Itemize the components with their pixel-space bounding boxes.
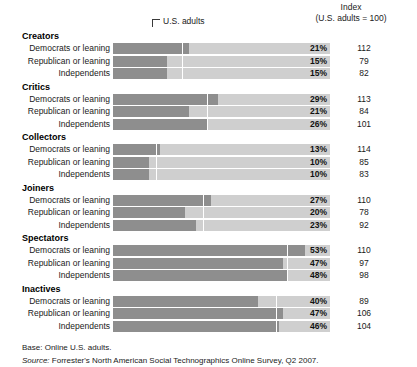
bar-value-label: 20%: [310, 207, 327, 218]
bar-row: Independents48%98: [0, 270, 417, 281]
index-value: 110: [336, 195, 392, 206]
us-adults-marker: [203, 219, 204, 232]
bar-row: Republican or leaning20%78: [0, 207, 417, 218]
bar-row: Independents26%101: [0, 119, 417, 130]
bar-value-label: 27%: [310, 195, 327, 206]
bar-fill: [113, 169, 149, 180]
bar-track: 20%: [113, 207, 330, 218]
us-adults-marker: [287, 257, 288, 270]
us-adults-marker: [203, 194, 204, 207]
bar-value-label: 13%: [310, 144, 327, 155]
index-header-line2: (U.S. adults = 100): [291, 13, 411, 24]
bar-row: Republican or leaning10%85: [0, 157, 417, 168]
bar-row: Republican or leaning21%84: [0, 106, 417, 117]
bar-track: 15%: [113, 68, 330, 79]
group-title: Critics: [0, 81, 417, 94]
bar-fill: [113, 94, 218, 105]
bar-fill: [113, 207, 185, 218]
chart-footer: Base: Online U.S. adults. Source: Forres…: [0, 341, 417, 367]
us-adults-marker: [276, 307, 277, 320]
source-text: Forrester's North American Social Techno…: [52, 356, 319, 365]
index-value: 84: [336, 106, 392, 117]
index-value: 82: [336, 68, 392, 79]
bar-value-label: 40%: [310, 296, 327, 307]
bar-fill: [113, 220, 196, 231]
bar-row: Democrats or leaning13%114: [0, 144, 417, 155]
bar-row: Democrats or leaning21%112: [0, 43, 417, 54]
index-value: 85: [336, 157, 392, 168]
bar-row: Democrats or leaning27%110: [0, 195, 417, 206]
bar-row-label: Democrats or leaning: [0, 195, 110, 206]
bar-row-label: Independents: [0, 119, 110, 130]
us-adults-marker: [207, 93, 208, 106]
us-adults-marker: [182, 55, 183, 68]
bar-row: Republican or leaning47%97: [0, 258, 417, 269]
bar-row-label: Independents: [0, 321, 110, 332]
bar-row-label: Democrats or leaning: [0, 245, 110, 256]
bar-track: 26%: [113, 119, 330, 130]
index-value: 89: [336, 296, 392, 307]
bar-value-label: 23%: [310, 220, 327, 231]
group-title: Collectors: [0, 131, 417, 144]
bar-row: Independents23%92: [0, 220, 417, 231]
bar-row-label: Democrats or leaning: [0, 43, 110, 54]
bar-track: 40%: [113, 296, 330, 307]
bar-row: Democrats or leaning40%89: [0, 296, 417, 307]
bar-fill: [113, 43, 189, 54]
bar-fill: [113, 258, 283, 269]
bar-fill: [113, 106, 189, 117]
bar-track: 29%: [113, 94, 330, 105]
bar-value-label: 29%: [310, 94, 327, 105]
group-title: Creators: [0, 30, 417, 43]
source-note: Source: Forrester's North American Socia…: [22, 354, 417, 367]
us-adults-marker: [182, 42, 183, 55]
bar-row-label: Republican or leaning: [0, 308, 110, 319]
bar-fill: [113, 68, 167, 79]
bar-row-label: Independents: [0, 220, 110, 231]
bar-value-label: 47%: [310, 258, 327, 269]
bar-fill: [113, 270, 287, 281]
bar-track: 27%: [113, 195, 330, 206]
bar-track: 21%: [113, 106, 330, 117]
index-value: 92: [336, 220, 392, 231]
bar-row: Democrats or leaning53%110: [0, 245, 417, 256]
bar-fill: [113, 321, 279, 332]
index-column-header: Index (U.S. adults = 100): [291, 2, 411, 24]
group-creators: CreatorsDemocrats or leaning21%112Republ…: [0, 30, 417, 79]
bar-row: Independents46%104: [0, 321, 417, 332]
index-value: 101: [336, 119, 392, 130]
group-critics: CriticsDemocrats or leaning29%113Republi…: [0, 81, 417, 130]
bar-track: 53%: [113, 245, 330, 256]
us-adults-marker: [182, 67, 183, 80]
source-label: Source:: [22, 356, 50, 365]
bar-row-label: Democrats or leaning: [0, 296, 110, 307]
group-title: Joiners: [0, 182, 417, 195]
bar-value-label: 15%: [310, 56, 327, 67]
index-value: 78: [336, 207, 392, 218]
index-value: 106: [336, 308, 392, 319]
bar-row: Independents10%83: [0, 169, 417, 180]
bar-row-label: Independents: [0, 68, 110, 79]
us-adults-marker: [276, 295, 277, 308]
bar-fill: [113, 245, 305, 256]
index-value: 110: [336, 245, 392, 256]
us-adults-callout: U.S. adults: [152, 15, 205, 26]
bar-row-label: Republican or leaning: [0, 56, 110, 67]
bar-track: 47%: [113, 308, 330, 319]
us-adults-marker: [276, 320, 277, 333]
index-value: 98: [336, 270, 392, 281]
bar-fill: [113, 157, 149, 168]
bar-fill: [113, 195, 211, 206]
bar-fill: [113, 119, 207, 130]
group-spectators: SpectatorsDemocrats or leaning53%110Repu…: [0, 232, 417, 281]
index-value: 112: [336, 43, 392, 54]
index-value: 79: [336, 56, 392, 67]
bar-fill: [113, 308, 283, 319]
group-collectors: CollectorsDemocrats or leaning13%114Repu…: [0, 131, 417, 180]
bar-row-label: Republican or leaning: [0, 106, 110, 117]
callout-elbow-icon: [152, 19, 160, 27]
bar-track: 10%: [113, 169, 330, 180]
us-adults-marker: [203, 206, 204, 219]
bar-row: Independents15%82: [0, 68, 417, 79]
